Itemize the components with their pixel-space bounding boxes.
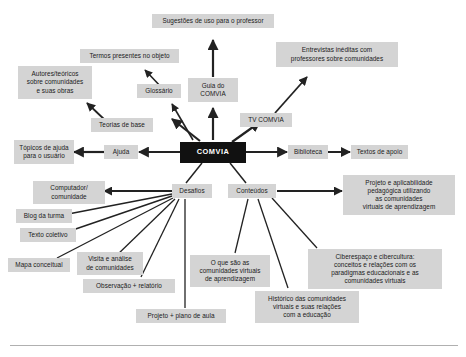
edge-conteudos-oquesao bbox=[235, 199, 248, 253]
node-projeto-aplicabilidade-pedagogica[interactable]: Projeto e aplicabilidade pedagógica util… bbox=[343, 175, 455, 215]
footer-divider bbox=[10, 345, 458, 346]
node-blog-da-turma[interactable]: Blog da turma bbox=[16, 209, 72, 223]
edge-conteudos-ciberespaco bbox=[272, 198, 317, 248]
edge-comvia-conteudos bbox=[230, 163, 246, 183]
node-sugestoes-uso-professor[interactable]: Sugestões de uso para o professor bbox=[152, 14, 274, 28]
node-tv-comvia[interactable]: TV COMVIA bbox=[240, 113, 292, 127]
node-visita-analise-comunidades[interactable]: Visita e análise de comunidades bbox=[77, 252, 143, 275]
node-autores-teoricos[interactable]: Autores/teóricos sobre comunidades e sua… bbox=[18, 66, 92, 99]
node-teorias-de-base[interactable]: Teorias de base bbox=[91, 118, 153, 132]
edge-tvcomvia-entrevistas bbox=[275, 77, 307, 113]
node-o-que-sao-comunidades-virtuais[interactable]: O que são as comunidades virtuais de apr… bbox=[190, 255, 270, 287]
concept-map-diagram: Sugestões de uso para o professor Termos… bbox=[0, 0, 466, 357]
node-mapa-conceitual[interactable]: Mapa conceitual bbox=[8, 258, 70, 272]
edge-comvia-glossario bbox=[172, 104, 193, 140]
node-comvia-center[interactable]: COMVIA bbox=[180, 142, 246, 163]
edge-comvia-teorias bbox=[172, 119, 200, 141]
node-observacao-relatorio[interactable]: Observação + relatório bbox=[83, 279, 175, 293]
node-glossario[interactable]: Glossário bbox=[137, 84, 181, 98]
node-ajuda[interactable]: Ajuda bbox=[104, 145, 138, 159]
node-projeto-plano-de-aula[interactable]: Projeto + plano de aula bbox=[136, 309, 226, 323]
edge-comvia-desafios bbox=[186, 163, 202, 183]
node-termos-presentes-objeto[interactable]: Termos presentes no objeto bbox=[80, 49, 179, 63]
node-texto-coletivo[interactable]: Texto coletivo bbox=[20, 228, 76, 242]
node-conteudos[interactable]: Conteúdos bbox=[228, 184, 276, 198]
node-biblioteca[interactable]: Biblioteca bbox=[288, 145, 328, 159]
node-textos-de-apoio[interactable]: Textos de apoio bbox=[351, 145, 408, 159]
node-ciberespaco-cibercultura[interactable]: Ciberespaço e cibercultura: conceitos e … bbox=[308, 249, 442, 289]
node-topicos-ajuda-usuario[interactable]: Tópicos de ajuda para o usuário bbox=[14, 140, 74, 164]
node-entrevistas-ineditas[interactable]: Entrevistas inéditas com professores sob… bbox=[276, 42, 398, 67]
node-historico-comunidades-virtuais[interactable]: Histórico das comunidades virtuais e sua… bbox=[255, 291, 359, 323]
node-desafios[interactable]: Desafios bbox=[172, 184, 212, 198]
node-computador-comunidade[interactable]: Computador/ comunidade bbox=[33, 181, 105, 204]
edge-desafios-visita bbox=[116, 199, 175, 256]
edge-desafios-observacao bbox=[141, 199, 179, 277]
node-guia-comvia[interactable]: Guia do COMVIA bbox=[188, 78, 238, 102]
